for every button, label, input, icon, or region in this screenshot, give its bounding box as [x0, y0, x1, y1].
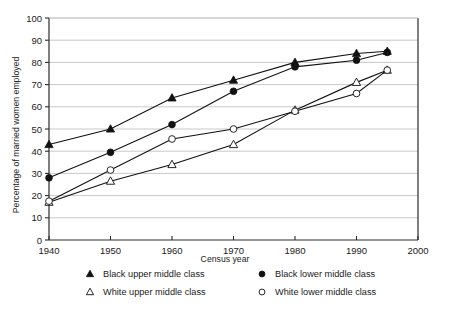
y-axis-title: Percentage of married women employed: [11, 57, 21, 214]
marker-filled-circle: [46, 174, 53, 181]
legend-label: Black upper middle class: [103, 269, 205, 279]
marker-filled-circle: [169, 121, 176, 128]
marker-open-circle: [107, 167, 114, 174]
legend-label: White upper middle class: [103, 287, 206, 297]
legend-label: Black lower middle class: [275, 269, 375, 279]
y-tick-label: 40: [31, 146, 42, 157]
legend-item: Black lower middle class: [259, 269, 375, 279]
marker-open-circle: [384, 67, 391, 74]
x-tick-label: 2000: [407, 245, 428, 256]
chart-figure: 0102030405060708090100 19401950196019701…: [0, 0, 451, 309]
marker-filled-circle: [292, 63, 299, 70]
y-tick-label: 70: [31, 79, 42, 90]
marker-filled-circle: [384, 49, 391, 56]
marker-filled-circle: [259, 271, 265, 277]
y-tick-label: 0: [37, 235, 42, 246]
legend-item: White upper middle class: [86, 287, 206, 297]
x-axis-title: Census year: [201, 254, 250, 264]
x-tick-label: 1950: [100, 245, 121, 256]
y-tick-label: 100: [26, 13, 42, 24]
marker-open-circle: [169, 136, 176, 143]
marker-open-circle: [292, 108, 299, 115]
legend-label: White lower middle class: [275, 287, 377, 297]
x-tick-label: 1960: [161, 245, 182, 256]
x-tick-label: 1940: [38, 245, 59, 256]
marker-filled-circle: [230, 88, 237, 95]
line-chart-canvas: 0102030405060708090100 19401950196019701…: [0, 0, 451, 309]
y-tick-label: 90: [31, 35, 42, 46]
marker-open-circle: [353, 90, 360, 97]
legend-item: Black upper middle class: [86, 269, 205, 279]
y-tick-label: 10: [31, 212, 42, 223]
marker-open-circle: [259, 289, 265, 295]
y-tick-label: 50: [31, 124, 42, 135]
marker-filled-circle: [353, 57, 360, 64]
y-tick-label: 80: [31, 57, 42, 68]
legend-item: White lower middle class: [259, 287, 376, 297]
y-tick-label: 30: [31, 168, 42, 179]
marker-filled-circle: [107, 149, 114, 156]
y-tick-label: 20: [31, 190, 42, 201]
y-tick-label: 60: [31, 101, 42, 112]
marker-open-circle: [46, 198, 53, 205]
x-tick-label: 1990: [346, 245, 367, 256]
x-tick-label: 1980: [284, 245, 305, 256]
marker-open-circle: [230, 126, 237, 133]
